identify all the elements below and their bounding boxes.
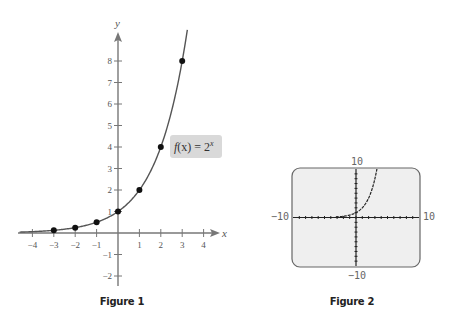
data-point <box>94 219 100 225</box>
y-tick-label: 2 <box>108 185 113 195</box>
data-point <box>72 225 78 231</box>
figure-1-caption: Figure 1 <box>100 296 145 307</box>
y-tick-label: 6 <box>108 99 113 109</box>
data-point <box>115 209 121 215</box>
window-xmin-label: −10 <box>271 211 289 222</box>
figure-2-calculator-screen: 10 −10 −10 10 Figure 2 <box>271 156 435 307</box>
function-label-exponent: x <box>209 139 214 148</box>
function-label: f(x) = 2x <box>170 135 222 158</box>
data-point <box>51 227 57 233</box>
figures-canvas: −4−3−2−11234−2−112345678 x y f(x) = 2x F… <box>0 0 451 319</box>
figure-1-curve <box>20 30 188 232</box>
window-ymax-label: 10 <box>351 156 363 167</box>
data-point <box>179 58 185 64</box>
y-tick-label: 4 <box>108 142 113 152</box>
window-xmax-label: 10 <box>423 211 435 222</box>
y-tick-label: 8 <box>108 56 113 66</box>
x-tick-label: −3 <box>49 240 59 250</box>
x-tick-label: 3 <box>180 240 185 250</box>
x-tick-label: −1 <box>92 240 102 250</box>
x-tick-label: −4 <box>28 240 38 250</box>
y-tick-label: −1 <box>102 250 112 260</box>
x-tick-label: −2 <box>70 240 80 250</box>
x-tick-label: 1 <box>137 240 142 250</box>
y-tick-label: 7 <box>108 78 113 88</box>
figure-1-ticks: −4−3−2−11234−2−112345678 <box>28 56 207 281</box>
figure-2-caption: Figure 2 <box>330 296 375 307</box>
y-tick-label: 3 <box>108 164 113 174</box>
figure-1-x-axis-label: x <box>221 227 227 239</box>
window-ymin-label: −10 <box>348 270 366 281</box>
data-point <box>158 144 164 150</box>
data-point <box>136 187 142 193</box>
function-label-body: (x) = 2 <box>177 140 210 154</box>
x-tick-label: 2 <box>159 240 164 250</box>
y-tick-label: 5 <box>108 121 113 131</box>
function-label-text: f(x) = 2x <box>174 139 214 154</box>
y-tick-label: −2 <box>102 271 112 281</box>
figure-1-y-axis-label: y <box>114 17 120 29</box>
x-tick-label: 4 <box>201 240 206 250</box>
figure-1-plot: −4−3−2−11234−2−112345678 x y f(x) = 2x F… <box>18 17 227 307</box>
